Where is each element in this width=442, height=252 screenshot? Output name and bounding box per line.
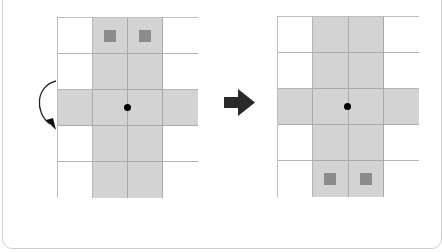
after-cell-r2-c0 [278,89,313,125]
after-cell-r1-c2 [349,53,384,89]
before-cell-r1-c1 [93,54,128,90]
before-cell-r2-c2 [128,90,163,126]
after-cell-r0-c0 [278,17,313,53]
pivot-point-before [124,104,131,111]
right-arrow-icon [224,89,255,116]
before-cell-r0-c2 [128,18,163,54]
square-marker [139,30,151,42]
after-cell-r4-c3 [384,161,419,197]
after-cell-r3-c3 [384,125,419,161]
before-cell-r4-c0 [58,162,93,198]
after-cell-r0-c2 [349,17,384,53]
before-cell-r0-c0 [58,18,93,54]
after-cell-r0-c1 [313,17,348,53]
after-cell-r3-c2 [349,125,384,161]
before-cell-r2-c3 [163,90,198,126]
before-cell-r0-c3 [163,18,198,54]
before-cell-r2-c1 [93,90,128,126]
after-cell-r4-c2 [349,161,384,197]
before-cell-r4-c3 [163,162,198,198]
after-cell-r1-c0 [278,53,313,89]
before-cell-r1-c2 [128,54,163,90]
square-marker [360,173,372,185]
after-cell-r1-c1 [313,53,348,89]
after-cell-r1-c3 [384,53,419,89]
before-cell-r3-c2 [128,126,163,162]
pivot-point-after [344,103,351,110]
after-cell-r4-c0 [278,161,313,197]
before-cell-r3-c1 [93,126,128,162]
after-cell-r0-c3 [384,17,419,53]
after-cell-r4-c1 [313,161,348,197]
before-cell-r0-c1 [93,18,128,54]
before-cell-r1-c0 [58,54,93,90]
before-cell-r4-c1 [93,162,128,198]
before-cell-r3-c3 [163,126,198,162]
rotation-arrow-icon [30,78,62,134]
square-marker [104,30,116,42]
before-cell-r1-c3 [163,54,198,90]
before-cell-r2-c0 [58,90,93,126]
before-cell-r3-c0 [58,126,93,162]
square-marker [324,173,336,185]
after-cell-r3-c1 [313,125,348,161]
after-cell-r2-c2 [349,89,384,125]
after-cell-r3-c0 [278,125,313,161]
after-cell-r2-c3 [384,89,419,125]
before-cell-r4-c2 [128,162,163,198]
